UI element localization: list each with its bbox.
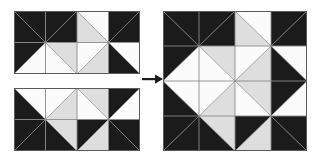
hst-cell-r2-c1: [199, 81, 235, 116]
hst-cell-r1-c1: [46, 120, 78, 152]
hst-cell-r1-c0: [163, 46, 199, 81]
quilt-block-assembled: [163, 11, 307, 151]
hst-cell-r1-c1: [46, 43, 78, 75]
arrow-shaft: [142, 78, 156, 80]
quilt-unit-bottom: [14, 88, 140, 151]
hst-cell-r1-c3: [271, 46, 307, 81]
hst-cell-r1-c0: [14, 120, 46, 152]
transformation-arrow-icon: [142, 72, 164, 86]
hst-cell-r3-c1: [199, 116, 235, 151]
hst-cell-r1-c2: [235, 46, 271, 81]
hst-cell-r0-c0: [14, 88, 46, 120]
hst-cell-r2-c2: [235, 81, 271, 116]
hst-cell-r0-c2: [235, 11, 271, 46]
hst-cell-r0-c2: [77, 88, 109, 120]
hst-cell-r3-c3: [271, 116, 307, 151]
hst-cell-r1-c2: [77, 43, 109, 75]
hst-cell-r0-c3: [109, 88, 141, 120]
hst-cell-r1-c3: [109, 43, 141, 75]
hst-cell-r0-c1: [199, 11, 235, 46]
hst-cell-r0-c3: [271, 11, 307, 46]
hst-cell-r3-c0: [163, 116, 199, 151]
hst-cell-r0-c2: [77, 11, 109, 43]
arrow-head: [155, 75, 163, 84]
hst-cell-r2-c0: [163, 81, 199, 116]
hst-cell-r3-c2: [235, 116, 271, 151]
hst-cell-r0-c1: [46, 11, 78, 43]
hst-cell-r1-c2: [77, 120, 109, 152]
hst-cell-r0-c3: [109, 11, 141, 43]
hst-cell-r0-c1: [46, 88, 78, 120]
hst-cell-r1-c0: [14, 43, 46, 75]
hst-cell-r0-c0: [163, 11, 199, 46]
hst-cell-r1-c1: [199, 46, 235, 81]
hst-cell-r2-c3: [271, 81, 307, 116]
quilt-unit-top: [14, 11, 140, 74]
hst-cell-r1-c3: [109, 120, 141, 152]
hst-cell-r0-c0: [14, 11, 46, 43]
figure-canvas: [0, 0, 317, 162]
